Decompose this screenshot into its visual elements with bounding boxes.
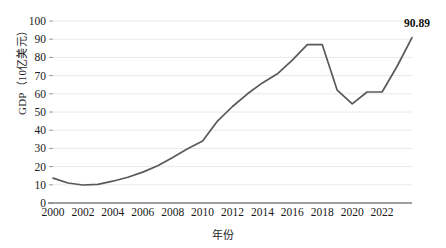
plot-area bbox=[0, 0, 446, 248]
gdp-line-chart: GDP（10亿美元） 年份 0102030405060708090100 200… bbox=[0, 0, 446, 248]
data-label-last-point: 90.89 bbox=[404, 17, 430, 29]
data-series-line bbox=[53, 38, 412, 185]
